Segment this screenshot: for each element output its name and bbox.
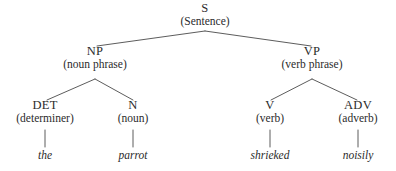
node-v: V (verb) — [256, 99, 284, 124]
leaf-word-the: the — [38, 149, 52, 161]
node-adv-gloss: (adverb) — [339, 112, 378, 124]
leaf-word-noisily: noisily — [343, 149, 374, 161]
node-s: S (Sentence) — [180, 2, 229, 27]
syntax-tree-figure: S (Sentence) NP (noun phrase) VP (verb p… — [0, 0, 396, 171]
node-v-symbol: V — [256, 99, 284, 112]
node-s-gloss: (Sentence) — [180, 15, 229, 27]
node-adv: ADV (adverb) — [339, 99, 378, 124]
node-det: DET (determiner) — [16, 99, 73, 124]
node-np-symbol: NP — [63, 45, 127, 58]
node-np: NP (noun phrase) — [63, 45, 127, 70]
node-det-symbol: DET — [16, 99, 73, 112]
node-vp: VP (verb phrase) — [282, 45, 343, 70]
edge-s-np — [97, 31, 205, 46]
leaf-word-shrieked: shrieked — [251, 149, 290, 161]
leaf-word-parrot: parrot — [119, 149, 148, 161]
edge-np-det — [47, 79, 95, 100]
node-n: N (noun) — [118, 99, 149, 124]
node-v-gloss: (verb) — [256, 112, 284, 124]
edge-np-n — [95, 79, 133, 100]
edge-vp-v — [271, 79, 312, 100]
edge-s-vp — [205, 31, 311, 46]
node-det-gloss: (determiner) — [16, 112, 73, 124]
node-n-symbol: N — [118, 99, 149, 112]
node-vp-gloss: (verb phrase) — [282, 58, 343, 70]
node-np-gloss: (noun phrase) — [63, 58, 127, 70]
node-adv-symbol: ADV — [339, 99, 378, 112]
edge-vp-adv — [312, 79, 357, 100]
node-s-symbol: S — [180, 2, 229, 15]
node-n-gloss: (noun) — [118, 112, 149, 124]
node-vp-symbol: VP — [282, 45, 343, 58]
